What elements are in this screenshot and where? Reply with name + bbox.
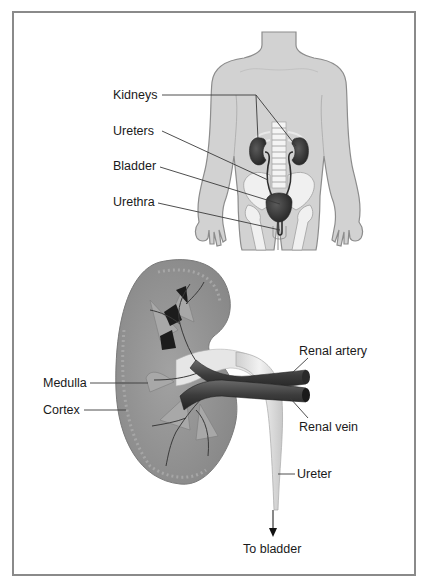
label-medulla: Medulla	[43, 376, 87, 390]
kidney-cross-section	[116, 260, 310, 537]
label-renal-vein: Renal vein	[299, 420, 358, 434]
label-bladder: Bladder	[113, 159, 156, 173]
urinary-system-illustration: Kidneys Ureters Bladder Urethra	[0, 0, 425, 586]
label-ureters: Ureters	[113, 124, 154, 138]
label-urethra: Urethra	[113, 195, 155, 209]
label-kidneys: Kidneys	[113, 88, 157, 102]
arrow-head-icon	[269, 528, 277, 537]
label-ureter: Ureter	[297, 467, 332, 481]
spine	[272, 122, 286, 188]
label-renal-artery: Renal artery	[299, 344, 368, 358]
label-cortex: Cortex	[43, 403, 81, 417]
label-to-bladder: To bladder	[243, 542, 301, 556]
